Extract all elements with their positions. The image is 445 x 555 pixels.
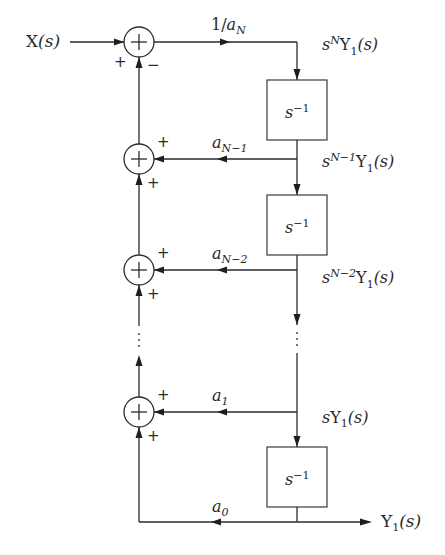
- signal-label-sN: sNY1(s): [322, 35, 378, 57]
- arrow-head-icon: [136, 355, 143, 366]
- delay-base: s: [285, 103, 293, 122]
- gain-label-aN2: aN−2: [212, 246, 247, 265]
- gain-label-a1: a1: [212, 388, 229, 407]
- sign-label: +: [147, 287, 160, 302]
- signal-s: s: [322, 408, 330, 427]
- signal-sup: N−2: [330, 267, 356, 280]
- arrow-head-icon: [114, 39, 124, 46]
- ellipsis-dot: [296, 344, 298, 346]
- signal-label-sN1: sN−1Y1(s): [322, 152, 394, 174]
- signal-arg: (s): [374, 268, 395, 287]
- sign-label: +: [157, 388, 170, 403]
- gain-label-a0: a0: [212, 499, 229, 518]
- signal-label-sN2: sN−2Y1(s): [322, 268, 394, 290]
- arrow-head-icon: [136, 57, 143, 68]
- signal-y: Y: [356, 268, 367, 287]
- arrow-head-icon: [211, 519, 221, 526]
- ellipsis-dot: [138, 339, 140, 341]
- gain-var: a: [212, 133, 222, 152]
- input-var: X: [26, 31, 38, 51]
- delay-base: s: [285, 218, 293, 237]
- signal-y: Y: [340, 35, 351, 54]
- delay-label-3: s−1: [285, 470, 309, 488]
- summer-2: [124, 144, 154, 174]
- signal-sup: N−1: [330, 151, 356, 164]
- sign-label: +: [147, 176, 160, 191]
- arrow-head-icon: [360, 519, 372, 526]
- arrow-head-icon: [220, 39, 230, 46]
- arrow-head-icon: [294, 314, 301, 325]
- signal-s: s: [322, 35, 330, 54]
- ellipsis-dot: [296, 338, 298, 340]
- signal-label-s1: sY1(s): [322, 410, 368, 429]
- arrow-head-icon: [217, 156, 227, 163]
- output-arg: (s): [399, 511, 421, 531]
- summer-1: [124, 27, 154, 57]
- signal-s: s: [322, 268, 330, 287]
- arrow-head-icon: [154, 409, 164, 416]
- summer-3: [124, 255, 154, 285]
- signal-sub: 1: [367, 162, 374, 175]
- sign-label: +: [147, 429, 160, 444]
- sign-label: +: [157, 246, 170, 261]
- delay-exp: −1: [293, 217, 309, 230]
- arrow-head-icon: [294, 436, 301, 447]
- delay-label-2: s−1: [285, 218, 309, 236]
- gain-label-aN1: aN−1: [212, 135, 247, 154]
- arrow-head-icon: [294, 184, 301, 195]
- delay-base: s: [285, 470, 293, 489]
- gain-sub: 1: [222, 395, 229, 408]
- output-var: Y: [381, 511, 392, 531]
- gain-sub: 0: [222, 506, 229, 519]
- arrow-head-icon: [136, 174, 143, 185]
- arrow-head-icon: [136, 285, 143, 296]
- delay-label-1: s−1: [285, 103, 309, 121]
- gain-sub: N−2: [222, 253, 248, 266]
- gain-sub: N−1: [222, 142, 248, 155]
- signal-arg: (s): [374, 152, 395, 171]
- arrow-head-icon: [294, 69, 301, 80]
- arrow-head-icon: [136, 427, 143, 438]
- output-label: Y1(s): [381, 513, 421, 533]
- summer-4: [124, 397, 154, 427]
- signal-arg: (s): [348, 408, 369, 427]
- gain-top-label: 1/aN: [211, 17, 246, 36]
- sign-label: −: [147, 58, 160, 73]
- gain-var: a: [212, 244, 222, 263]
- input-label: X(s): [26, 33, 60, 50]
- delay-exp: −1: [293, 102, 309, 115]
- arrow-head-icon: [217, 267, 227, 274]
- gain-sub: N: [236, 24, 246, 37]
- gain-var: a: [212, 497, 222, 516]
- ellipsis-dot: [138, 333, 140, 335]
- input-arg: (s): [38, 31, 60, 51]
- signal-sub: 1: [341, 417, 348, 430]
- ellipsis-dot: [138, 345, 140, 347]
- gain-var: a: [227, 15, 237, 34]
- arrow-head-icon: [217, 409, 227, 416]
- arrow-head-icon: [154, 267, 164, 274]
- ellipsis-dot: [296, 332, 298, 334]
- sign-label: +: [114, 55, 127, 70]
- arrow-head-icon: [154, 156, 164, 163]
- signal-sup: N: [330, 34, 340, 47]
- gain-prefix: 1/: [211, 15, 227, 34]
- delay-exp: −1: [293, 469, 309, 482]
- gain-var: a: [212, 386, 222, 405]
- signal-arg: (s): [357, 35, 378, 54]
- signal-y: Y: [330, 408, 341, 427]
- signal-y: Y: [356, 152, 367, 171]
- signal-sub: 1: [367, 278, 374, 291]
- signal-s: s: [322, 152, 330, 171]
- sign-label: +: [157, 135, 170, 150]
